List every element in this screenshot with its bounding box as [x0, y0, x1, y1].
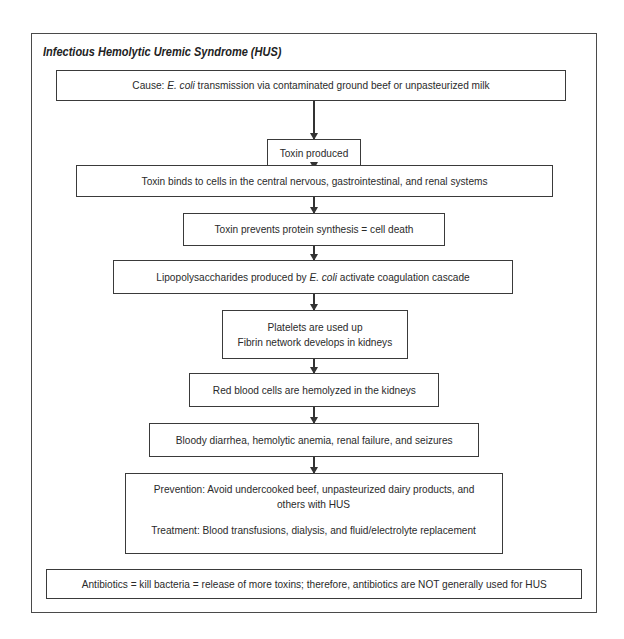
prevention-treatment-box: Prevention: Avoid undercooked beef, unpa…: [125, 473, 503, 554]
arrow-icon: [313, 246, 315, 260]
arrow-icon: [313, 101, 315, 139]
cause-text: Cause: E. coli transmission via contamin…: [132, 78, 489, 93]
platelets-box: Platelets are used up Fibrin network dev…: [222, 310, 408, 359]
arrow-icon: [313, 294, 315, 310]
arrow-icon: [313, 359, 315, 373]
arrow-icon: [313, 197, 315, 213]
cause-box: Cause: E. coli transmission via contamin…: [56, 70, 566, 101]
toxin-prevents-box: Toxin prevents protein synthesis = cell …: [183, 213, 445, 246]
antibiotics-note-box: Antibiotics = kill bacteria = release of…: [46, 569, 582, 599]
lipopolysaccharides-box: Lipopolysaccharides produced by E. coli …: [113, 260, 513, 294]
arrow-icon: [313, 457, 315, 473]
toxin-binds-box: Toxin binds to cells in the central nerv…: [76, 165, 553, 197]
symptoms-box: Bloody diarrhea, hemolytic anemia, renal…: [149, 423, 479, 457]
diagram-title: Infectious Hemolytic Uremic Syndrome (HU…: [43, 45, 281, 59]
red-blood-cells-box: Red blood cells are hemolyzed in the kid…: [189, 373, 439, 407]
arrow-icon: [313, 407, 315, 423]
